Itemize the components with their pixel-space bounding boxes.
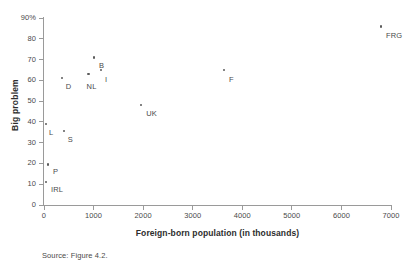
data-point-label: S — [68, 135, 73, 144]
x-axis-tick-label: 5000 — [272, 211, 312, 220]
y-axis-title: Big problem — [10, 45, 20, 165]
data-point-marker — [45, 181, 47, 183]
y-axis-tick-label: 0 — [10, 200, 36, 209]
y-axis-tick-label: 90% — [10, 13, 36, 22]
x-axis-tick — [291, 206, 292, 210]
x-axis-tick-label: 0 — [24, 211, 64, 220]
x-axis-tick — [143, 206, 144, 210]
data-point-label: IRL — [51, 185, 63, 194]
x-axis-tick-label: 6000 — [321, 211, 361, 220]
data-point-marker — [100, 69, 102, 71]
x-axis-tick — [93, 206, 94, 210]
x-axis-tick — [341, 206, 342, 210]
plot-area: DBINLUKFFRGLSPIRL — [44, 18, 391, 205]
x-axis-tick — [391, 206, 392, 210]
data-point-label: UK — [146, 109, 157, 118]
x-axis-tick — [242, 206, 243, 210]
figure-scatter-chart: 90%80706050403020100 0100020003000400050… — [0, 0, 411, 272]
data-point-marker — [87, 73, 89, 75]
source-note: Source: Figure 4.2. — [42, 251, 108, 260]
data-point-marker — [93, 56, 95, 58]
data-point-label: FRG — [386, 31, 402, 40]
x-axis-line — [43, 205, 392, 206]
data-point-marker — [63, 130, 65, 132]
data-point-marker — [47, 163, 49, 165]
y-axis-tick-label: 10 — [10, 179, 36, 188]
x-axis-tick — [44, 206, 45, 210]
x-axis-title: Foreign-born population (in thousands) — [44, 228, 391, 238]
x-axis-tick-label: 4000 — [222, 211, 262, 220]
data-point-label: F — [229, 75, 234, 84]
data-point-marker — [61, 77, 63, 79]
data-point-label: D — [66, 82, 72, 91]
y-axis-tick-label: 80 — [10, 34, 36, 43]
data-point-label: NL — [87, 82, 97, 91]
x-axis-tick-label: 7000 — [371, 211, 411, 220]
data-point-marker — [45, 123, 47, 125]
data-point-marker — [223, 69, 225, 71]
x-axis-tick-label: 2000 — [123, 211, 163, 220]
data-point-marker — [140, 104, 142, 106]
x-axis-tick — [192, 206, 193, 210]
data-point-label: L — [49, 128, 53, 137]
x-axis-tick-label: 1000 — [74, 211, 114, 220]
data-point-label: P — [53, 167, 58, 176]
data-point-marker — [380, 25, 382, 27]
data-point-label: I — [105, 75, 107, 84]
x-axis-tick-label: 3000 — [173, 211, 213, 220]
